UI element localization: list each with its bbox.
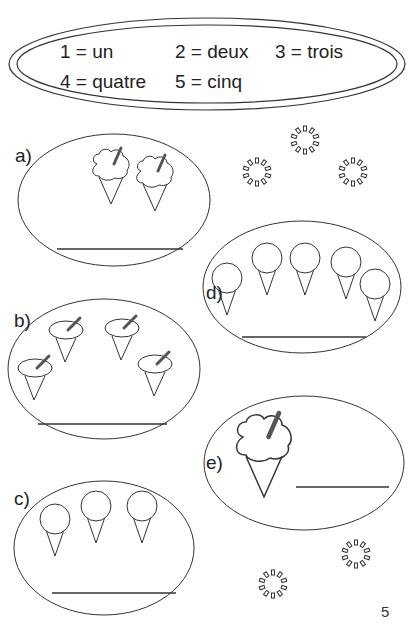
soft-serve-ice-cream-icon	[105, 316, 139, 360]
soft-serve-ice-cream-icon	[237, 413, 292, 497]
sparkle-ring-icon	[259, 570, 287, 598]
scoop-ice-cream-cone-icon	[360, 269, 390, 321]
worksheet-canvas	[0, 0, 410, 628]
legend-frame	[9, 18, 405, 110]
scoop-ice-cream-cone-icon	[252, 243, 282, 295]
soft-serve-ice-cream-icon	[18, 356, 52, 400]
answer-input-c[interactable]	[52, 574, 180, 594]
soft-serve-ice-cream-icon	[137, 155, 173, 211]
legend-item-3: 3 = trois	[275, 41, 343, 63]
answer-input-e[interactable]	[296, 468, 393, 488]
soft-serve-ice-cream-icon	[138, 352, 172, 396]
answer-input-d[interactable]	[242, 318, 370, 338]
exercise-e-frame	[204, 396, 404, 530]
exercise-label-e: e)	[206, 452, 223, 474]
legend-item-2: 2 = deux	[175, 41, 248, 63]
sparkle-ring-icon	[243, 158, 271, 186]
answer-input-b[interactable]	[38, 405, 171, 425]
legend-item-1: 1 = un	[60, 41, 113, 63]
scoop-ice-cream-cone-icon	[127, 491, 157, 543]
sparkle-ring-icon	[291, 126, 319, 154]
page-number: 5	[381, 603, 389, 620]
sparkle-ring-icon	[339, 158, 367, 186]
exercise-label-b: b)	[14, 310, 31, 332]
legend-item-5: 5 = cinq	[175, 71, 242, 93]
exercise-label-a: a)	[15, 145, 32, 167]
answer-input-a[interactable]	[57, 230, 187, 250]
soft-serve-ice-cream-icon	[93, 148, 129, 204]
exercise-label-c: c)	[14, 488, 30, 510]
legend-item-4: 4 = quatre	[60, 71, 146, 93]
sparkle-ring-icon	[342, 540, 370, 568]
exercise-label-d: d)	[206, 282, 223, 304]
exercise-c-frame	[14, 481, 194, 615]
scoop-ice-cream-cone-icon	[290, 243, 320, 295]
scoop-ice-cream-cone-icon	[40, 504, 70, 556]
scoop-ice-cream-cone-icon	[81, 491, 111, 543]
soft-serve-ice-cream-icon	[49, 318, 83, 362]
scoop-ice-cream-cone-icon	[331, 247, 361, 299]
